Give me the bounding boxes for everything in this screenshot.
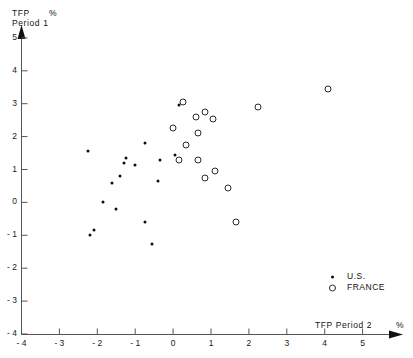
y-axis-title-line1: TFP [12, 8, 30, 18]
data-point-us [115, 207, 118, 210]
data-point-us [101, 201, 104, 204]
x-tick-label: 2 [239, 339, 259, 348]
x-tick-label: - 3 [49, 339, 69, 348]
data-point-france [202, 108, 209, 115]
data-point-us [111, 181, 114, 184]
data-point-france [192, 113, 199, 120]
data-point-france [211, 168, 218, 175]
data-point-us [156, 180, 159, 183]
x-tick-label: - 4 [12, 339, 32, 348]
y-tick-label: - 4 [1, 329, 17, 338]
y-tick-label: 5 [1, 33, 17, 42]
data-point-us [124, 156, 127, 159]
data-point-france [255, 103, 262, 110]
data-point-us [88, 234, 91, 237]
data-point-us [86, 150, 89, 153]
y-tick-label: 2 [1, 132, 17, 141]
data-point-us [151, 242, 154, 245]
legend-label-france: FRANCE [347, 282, 385, 293]
data-point-france [325, 85, 332, 92]
data-point-france [209, 115, 216, 122]
data-point-us [143, 221, 146, 224]
y-tick-label: 0 [1, 197, 17, 206]
data-point-us [143, 142, 146, 145]
y-axis-unit: % [49, 8, 57, 18]
x-tick-label: - 1 [125, 339, 145, 348]
x-tick-label: 4 [315, 339, 335, 348]
y-axis-title: TFP Period 1 [12, 8, 48, 28]
data-point-france [194, 156, 201, 163]
data-point-france [179, 99, 186, 106]
x-tick-label: 0 [163, 339, 183, 348]
y-axis-title-line2: Period 1 [12, 18, 48, 28]
data-point-france [170, 125, 177, 132]
data-point-us [134, 163, 137, 166]
x-tick-label: 1 [201, 339, 221, 348]
legend-circle-icon [329, 284, 336, 291]
data-point-france [225, 184, 232, 191]
scatter-chart-figure: TFP Period 1 % TFP Period 2 % - 4- 3- 2-… [0, 0, 413, 358]
data-point-us [92, 229, 95, 232]
data-point-france [183, 141, 190, 148]
data-point-us [158, 158, 161, 161]
legend-dot-icon [331, 275, 334, 278]
data-point-france [202, 174, 209, 181]
x-tick-label: 5 [353, 339, 373, 348]
y-tick-label: 3 [1, 99, 17, 108]
y-tick-label: - 1 [1, 230, 17, 239]
data-point-us [119, 175, 122, 178]
x-tick-label: - 2 [87, 339, 107, 348]
x-tick-label: 3 [277, 339, 297, 348]
data-point-france [232, 219, 239, 226]
y-tick-label: - 3 [1, 296, 17, 305]
legend-label-us: U.S. [347, 271, 366, 282]
x-axis-unit: % [396, 320, 404, 330]
plot-area: TFP Period 1 % TFP Period 2 % - 4- 3- 2-… [0, 0, 413, 358]
y-tick-label: 1 [1, 165, 17, 174]
y-tick-label: 4 [1, 66, 17, 75]
data-point-us [122, 161, 125, 164]
x-axis-title: TFP Period 2 [315, 320, 372, 330]
data-point-france [194, 130, 201, 137]
y-tick-label: - 2 [1, 263, 17, 272]
data-point-france [175, 156, 182, 163]
